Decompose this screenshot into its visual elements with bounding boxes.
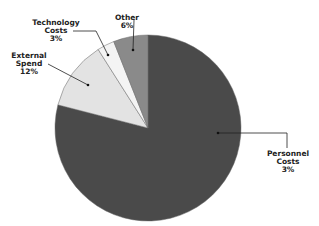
pie-chart: Personnel Costs 3% External Spend 12% Te… xyxy=(0,0,319,226)
label-other-pct: 6% xyxy=(121,21,134,30)
label-personnel-pct: 3% xyxy=(282,165,295,174)
pie-slices xyxy=(55,35,241,221)
label-external-pct: 12% xyxy=(20,67,38,76)
label-technology-pct: 3% xyxy=(50,34,63,43)
